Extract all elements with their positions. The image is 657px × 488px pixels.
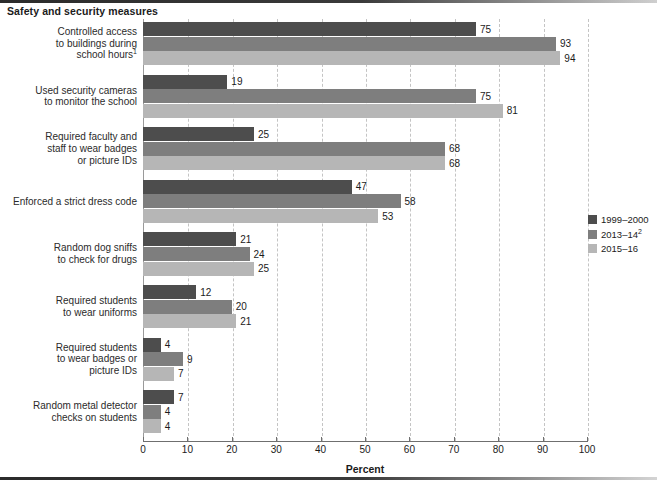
chart-page: Safety and security measures Controlled … [0, 0, 657, 488]
bar-value-label: 68 [449, 158, 460, 169]
bar-value-label: 94 [564, 53, 575, 64]
tick-label-70: 70 [448, 444, 459, 455]
gridline-70 [455, 19, 457, 441]
bar [143, 262, 254, 276]
tick-70 [454, 437, 455, 442]
category-label-line: to check for drugs [9, 254, 137, 266]
bar [143, 142, 445, 156]
gridline-80 [499, 19, 501, 441]
category-label: Required studentsto wear badges orpictur… [9, 342, 143, 377]
tick-label-80: 80 [493, 444, 504, 455]
bar-value-label: 58 [405, 196, 416, 207]
bar [143, 22, 476, 36]
category-label-line: to monitor the school [9, 96, 137, 108]
category-label-line: to buildings during [9, 38, 137, 50]
tick-60 [409, 437, 410, 442]
category-label-line: Required students [9, 295, 137, 307]
bar-value-label: 25 [258, 129, 269, 140]
tick-label-50: 50 [359, 444, 370, 455]
bar [143, 156, 445, 170]
legend-swatch [588, 215, 597, 224]
category-label-line: to wear uniforms [9, 307, 137, 319]
bottom-divider [0, 477, 657, 480]
bar-value-label: 4 [165, 421, 171, 432]
bar [143, 37, 556, 51]
category-label-line: school hours1 [9, 49, 137, 61]
legend-item: 1999–2000 [588, 214, 649, 225]
legend-label: 1999–2000 [601, 214, 649, 225]
bar-value-label: 47 [356, 181, 367, 192]
category-label-line: Enforced a strict dress code [9, 196, 137, 208]
bar-value-label: 4 [165, 406, 171, 417]
legend-swatch [588, 230, 597, 239]
bar-value-label: 7 [178, 368, 184, 379]
tick-label-0: 0 [140, 444, 146, 455]
category-label-line: Required students [9, 342, 137, 354]
category-label-line: Controlled access [9, 26, 137, 38]
bar [143, 314, 236, 328]
tick-50 [365, 437, 366, 442]
legend-item: 2013–142 [588, 229, 649, 240]
bar-value-label: 68 [449, 143, 460, 154]
legend-item: 2015–16 [588, 243, 649, 254]
legend-label: 2013–142 [601, 229, 642, 240]
tick-label-100: 100 [579, 444, 596, 455]
tick-80 [498, 437, 499, 442]
bar-value-label: 9 [187, 354, 193, 365]
bar-value-label: 21 [240, 316, 251, 327]
bar [143, 247, 250, 261]
gridline-50 [366, 19, 368, 441]
bar [143, 232, 236, 246]
legend: 1999–20002013–1422015–16 [588, 214, 649, 258]
category-label-line: Random dog sniffs [9, 242, 137, 254]
category-label: Enforced a strict dress code [9, 196, 143, 208]
tick-40 [321, 437, 322, 442]
x-axis-title: Percent [143, 463, 587, 475]
category-label-line: Required faculty and [9, 131, 137, 143]
bar [143, 405, 161, 419]
bar-value-label: 81 [507, 105, 518, 116]
category-label-line: picture IDs [9, 365, 137, 377]
bar-value-label: 53 [382, 211, 393, 222]
bar [143, 367, 174, 381]
tick-label-20: 20 [226, 444, 237, 455]
category-label: Controlled accessto buildings duringscho… [9, 26, 143, 61]
category-label: Used security camerasto monitor the scho… [9, 85, 143, 108]
bar-value-label: 7 [178, 392, 184, 403]
tick-0 [143, 437, 144, 442]
category-label-line: Used security cameras [9, 85, 137, 97]
bar-value-label: 19 [231, 76, 242, 87]
tick-20 [232, 437, 233, 442]
bar [143, 419, 161, 433]
tick-30 [276, 437, 277, 442]
tick-label-60: 60 [404, 444, 415, 455]
bar [143, 104, 503, 118]
bar [143, 209, 378, 223]
tick-90 [543, 437, 544, 442]
category-label-line: to wear badges or [9, 353, 137, 365]
bar-value-label: 93 [560, 38, 571, 49]
category-label: Required faculty andstaff to wear badges… [9, 131, 143, 166]
bar [143, 89, 476, 103]
category-label-line: staff to wear badges [9, 143, 137, 155]
tick-label-30: 30 [271, 444, 282, 455]
bar [143, 300, 232, 314]
bar [143, 194, 401, 208]
gridline-60 [410, 19, 412, 441]
bar-value-label: 21 [240, 234, 251, 245]
x-axis [143, 441, 588, 442]
category-label-line: Random metal detector [9, 400, 137, 412]
bar [143, 51, 560, 65]
category-label-line: checks on students [9, 412, 137, 424]
tick-label-90: 90 [537, 444, 548, 455]
tick-10 [187, 437, 188, 442]
footnote-marker: 2 [638, 227, 642, 234]
bar-value-label: 4 [165, 339, 171, 350]
tick-100 [587, 437, 588, 442]
gridline-90 [544, 19, 546, 441]
legend-label: 2015–16 [601, 243, 638, 254]
footnote-marker: 1 [133, 48, 137, 55]
category-label: Random dog sniffsto check for drugs [9, 242, 143, 265]
legend-swatch [588, 244, 597, 253]
bar-value-label: 75 [480, 24, 491, 35]
